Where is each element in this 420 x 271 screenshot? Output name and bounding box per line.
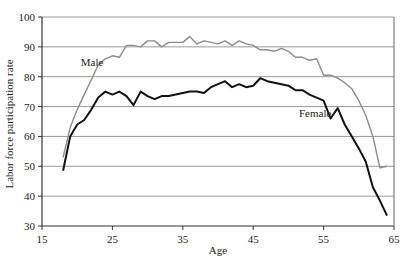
- y-tick-label: 90: [24, 41, 36, 53]
- line-chart: 30405060708090100 152535455565 MaleFemal…: [0, 0, 420, 271]
- x-axis-ticks: 152535455565: [37, 226, 401, 245]
- x-tick-label: 25: [107, 233, 119, 245]
- x-tick-label: 35: [177, 233, 189, 245]
- y-tick-label: 50: [24, 160, 36, 172]
- y-tick-label: 60: [24, 130, 36, 142]
- y-axis-title: Labor force participation rate: [3, 59, 15, 188]
- x-tick-label: 55: [318, 233, 330, 245]
- x-axis-title: Age: [209, 244, 227, 256]
- y-axis-ticks: 30405060708090100: [19, 11, 43, 232]
- male-label: Male: [81, 56, 104, 68]
- x-tick-label: 45: [248, 233, 260, 245]
- axes: [42, 17, 394, 226]
- x-tick-label: 15: [37, 233, 49, 245]
- series-labels: MaleFemale: [81, 56, 332, 119]
- y-tick-label: 30: [24, 220, 36, 232]
- female-label: Female: [299, 107, 331, 119]
- y-tick-label: 70: [24, 101, 36, 113]
- y-tick-label: 80: [24, 71, 36, 83]
- male-line: [63, 36, 387, 167]
- x-tick-label: 65: [389, 233, 401, 245]
- y-tick-label: 40: [24, 190, 36, 202]
- series-lines: [63, 36, 387, 215]
- female-line: [63, 78, 387, 215]
- y-tick-label: 100: [19, 11, 36, 23]
